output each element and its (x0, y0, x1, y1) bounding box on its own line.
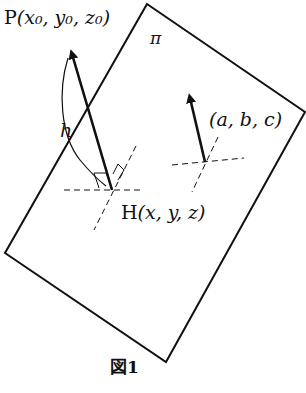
right-angle-mark-2 (94, 173, 99, 188)
dashed-line-n-slanted (192, 137, 218, 192)
normal-vector-arrow (190, 98, 205, 162)
distance-label: h (60, 121, 72, 140)
figure-diagram: P(x₀, y₀, z₀) π h (a, b, c) H(x, y, z) 図… (0, 0, 306, 393)
point-p-coords: (x₀, y₀, z₀) (17, 6, 110, 28)
figure-caption: 図1 (110, 359, 139, 376)
right-angle-mark-3 (113, 164, 124, 180)
plane-pi-outline (5, 4, 305, 362)
point-h-label: H(x, y, z) (121, 203, 206, 222)
point-p-label: P(x₀, y₀, z₀) (4, 8, 110, 27)
plane-label: π (150, 30, 161, 47)
plane-diagram-svg (0, 0, 306, 393)
normal-vector-label: (a, b, c) (209, 110, 282, 129)
point-h-coords: (x, y, z) (138, 201, 206, 223)
